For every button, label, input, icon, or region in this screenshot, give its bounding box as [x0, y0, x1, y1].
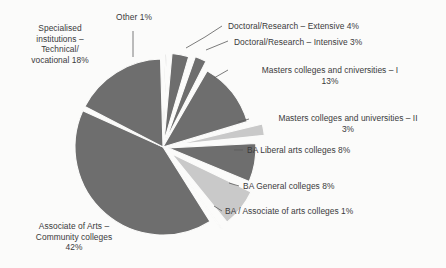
leader-line-doctoral-extensive [186, 26, 222, 48]
slice-label-specialised-institutions: Specialised institutions – Technical/ vo… [6, 23, 114, 65]
leader-line-doctoral-intensive [206, 41, 228, 50]
slice-label-doctoral-intensive: Doctoral/Research – Intensive 3% [234, 37, 440, 48]
slice-label-ba-general: BA General colleges 8% [243, 181, 433, 192]
pie-chart-figure: Specialised institutions – Technical/ vo… [0, 0, 446, 268]
slice-label-ba-liberal-arts: BA Liberal arts colleges 8% [247, 145, 437, 156]
slice-label-ba-associate: BA / Associate of arts colleges 1% [225, 206, 441, 217]
slice-label-masters-ii: Masters colleges and universities – II 3… [253, 113, 443, 134]
slice-label-doctoral-extensive: Doctoral/Research – Extensive 4% [228, 21, 440, 32]
leader-line-masters-i [214, 70, 228, 78]
slice-label-other: Other 1% [101, 12, 167, 23]
slice-label-masters-i: Masters colleges and cniversities – I 13… [232, 65, 428, 86]
slice-label-associate-of-arts: Associate of Arts – Community colleges 4… [4, 221, 144, 253]
